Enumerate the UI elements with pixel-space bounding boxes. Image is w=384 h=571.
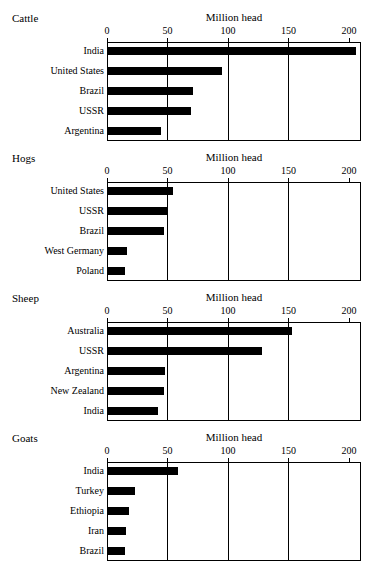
plot-area xyxy=(107,322,361,421)
bar xyxy=(108,347,262,355)
x-tick-label: 100 xyxy=(220,445,235,456)
x-tick-label: 0 xyxy=(105,25,110,36)
gridline xyxy=(228,183,229,280)
bar xyxy=(108,187,173,195)
bar xyxy=(108,527,126,535)
category-label: Iran xyxy=(88,524,104,535)
gridline xyxy=(167,463,168,560)
gridline xyxy=(228,323,229,420)
x-tick-label: 50 xyxy=(162,25,172,36)
x-tick-label: 150 xyxy=(281,165,296,176)
category-label: India xyxy=(83,404,104,415)
category-label: Turkey xyxy=(75,485,104,496)
bar xyxy=(108,67,222,75)
bar xyxy=(108,367,165,375)
category-label: Australia xyxy=(67,325,104,336)
x-axis-title: Million head xyxy=(206,291,263,303)
chart-figure: CattleMillion head050100150200IndiaUnite… xyxy=(0,0,384,571)
x-tick-label: 200 xyxy=(341,25,356,36)
bar xyxy=(108,267,125,275)
bar xyxy=(108,547,125,555)
category-label: USSR xyxy=(79,205,104,216)
gridline xyxy=(288,323,289,420)
gridline xyxy=(167,183,168,280)
x-tick-label: 200 xyxy=(341,445,356,456)
category-label: USSR xyxy=(79,345,104,356)
gridline xyxy=(167,323,168,420)
category-label: Brazil xyxy=(80,84,104,95)
category-label: United States xyxy=(50,65,104,76)
gridline xyxy=(288,183,289,280)
category-label: New Zealand xyxy=(50,384,104,395)
bar xyxy=(108,487,135,495)
panel-title: Goats xyxy=(12,432,38,444)
x-tick-label: 200 xyxy=(341,165,356,176)
x-tick-label: 50 xyxy=(162,445,172,456)
bar xyxy=(108,507,129,515)
panel-title: Sheep xyxy=(12,292,39,304)
bar xyxy=(108,387,164,395)
category-label: Poland xyxy=(76,264,104,275)
x-axis-title: Million head xyxy=(206,11,263,23)
x-tick-label: 150 xyxy=(281,305,296,316)
gridline xyxy=(288,463,289,560)
bar xyxy=(108,227,164,235)
plot-area xyxy=(107,182,361,281)
x-axis-title: Million head xyxy=(206,431,263,443)
plot-area xyxy=(107,42,361,141)
chart-panel: CattleMillion head050100150200IndiaUnite… xyxy=(0,6,384,146)
chart-panel: HogsMillion head050100150200United State… xyxy=(0,146,384,286)
chart-panel: GoatsMillion head050100150200IndiaTurkey… xyxy=(0,426,384,566)
category-label: India xyxy=(83,45,104,56)
category-label: Argentina xyxy=(64,124,104,135)
bar xyxy=(108,127,161,135)
x-tick-label: 150 xyxy=(281,445,296,456)
category-label: West Germany xyxy=(45,244,104,255)
panel-title: Hogs xyxy=(12,152,35,164)
bar xyxy=(108,467,178,475)
gridline xyxy=(228,43,229,140)
plot-area xyxy=(107,462,361,561)
gridline xyxy=(228,463,229,560)
x-tick-label: 0 xyxy=(105,305,110,316)
category-label: United States xyxy=(50,185,104,196)
x-tick-label: 100 xyxy=(220,25,235,36)
bar xyxy=(108,87,193,95)
bar xyxy=(108,327,292,335)
category-label: USSR xyxy=(79,104,104,115)
category-label: Argentina xyxy=(64,364,104,375)
bar xyxy=(108,207,167,215)
category-label: India xyxy=(83,465,104,476)
x-axis-title: Million head xyxy=(206,151,263,163)
category-label: Ethiopia xyxy=(70,504,104,515)
x-tick-label: 50 xyxy=(162,305,172,316)
x-tick-label: 150 xyxy=(281,25,296,36)
bar xyxy=(108,47,356,55)
x-tick-label: 100 xyxy=(220,305,235,316)
bar xyxy=(108,407,158,415)
bar xyxy=(108,247,127,255)
x-tick-label: 0 xyxy=(105,165,110,176)
gridline xyxy=(288,43,289,140)
category-label: Brazil xyxy=(80,224,104,235)
category-label: Brazil xyxy=(80,544,104,555)
x-tick-label: 50 xyxy=(162,165,172,176)
bar xyxy=(108,107,191,115)
x-tick-label: 100 xyxy=(220,165,235,176)
x-tick-label: 200 xyxy=(341,305,356,316)
panel-title: Cattle xyxy=(12,12,38,24)
chart-panel: SheepMillion head050100150200AustraliaUS… xyxy=(0,286,384,426)
x-tick-label: 0 xyxy=(105,445,110,456)
